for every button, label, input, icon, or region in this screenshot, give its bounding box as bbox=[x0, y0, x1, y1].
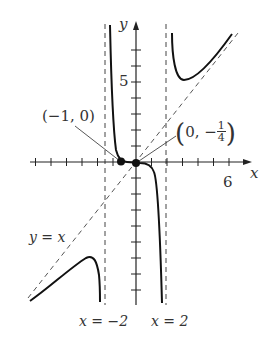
chart-figure: y x 5 6 (−1, 0) (0, − 1 4 ) y = x x = −2… bbox=[0, 0, 277, 350]
point-neg1-0 bbox=[117, 158, 125, 166]
slant-asymptote-label: y = x bbox=[29, 229, 65, 245]
point2-numerator: 1 bbox=[217, 120, 226, 132]
point1-label: (−1, 0) bbox=[42, 107, 95, 125]
curve-right-branch bbox=[172, 33, 232, 80]
point2-fraction: 1 4 bbox=[217, 120, 226, 143]
tick-label-6: 6 bbox=[223, 173, 233, 191]
y-axis-label: y bbox=[119, 15, 127, 33]
point-0-neg-quarter bbox=[132, 159, 140, 167]
point2-paren-close: ) bbox=[226, 118, 236, 148]
y-axis-arrow bbox=[133, 21, 139, 30]
leader-point2 bbox=[139, 136, 176, 161]
asymptote-right-label: x = 2 bbox=[151, 313, 188, 329]
x-axis-label: x bbox=[250, 164, 258, 182]
point2-prefix: 0, − bbox=[185, 123, 217, 141]
asymptote-left-label: x = −2 bbox=[79, 313, 128, 329]
curve-left-branch bbox=[30, 257, 100, 302]
tick-label-5: 5 bbox=[119, 72, 129, 90]
point2-paren-open: ( bbox=[175, 118, 185, 148]
point2-denominator: 4 bbox=[217, 132, 226, 143]
chart-canvas bbox=[0, 0, 277, 350]
point2-label: (0, − 1 4 ) bbox=[175, 121, 236, 153]
